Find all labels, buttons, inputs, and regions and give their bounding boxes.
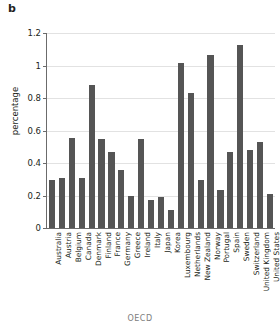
bar (188, 93, 194, 228)
x-tick-label: Australia (55, 232, 62, 265)
bar (217, 190, 223, 228)
bar (247, 150, 253, 228)
bar (128, 196, 134, 229)
x-tick-label: Norway (214, 232, 221, 260)
bar (237, 45, 243, 228)
bar (79, 178, 85, 228)
y-tick-label: 0.4 (27, 159, 41, 168)
y-axis-title: percentage (10, 71, 20, 151)
bar (49, 180, 55, 228)
x-tick-label: Finland (105, 232, 112, 258)
x-tick-label: Italy (154, 232, 161, 248)
x-tick-label: Germany (124, 232, 131, 266)
bar (138, 139, 144, 228)
x-tick-label: Canada (85, 232, 92, 260)
x-tick-label: Portugal (223, 232, 230, 263)
x-tick-label: United States (273, 232, 280, 282)
bar (158, 197, 164, 228)
x-tick-label: Sweden (243, 232, 250, 261)
x-tick-label: Spain (233, 232, 240, 253)
bar (178, 63, 184, 228)
bar (69, 138, 75, 228)
bar (257, 142, 263, 228)
bar (168, 210, 174, 228)
x-tick-label: United Kingdom (263, 232, 270, 291)
x-tick-label: Austria (65, 232, 72, 258)
x-tick-label: Greece (134, 232, 141, 258)
bar (267, 194, 273, 228)
x-tick-label: Korea (174, 232, 181, 253)
y-tick-label: 1 (36, 61, 41, 70)
bar (89, 85, 95, 228)
y-tick-label: 0 (36, 224, 41, 233)
bar (118, 170, 124, 229)
x-tick-label: France (114, 232, 121, 257)
bar (98, 139, 104, 228)
y-tick-label: 0.8 (27, 94, 41, 103)
y-tick-label: 1.2 (27, 29, 41, 38)
bar (108, 152, 114, 228)
x-tick-label: Netherlands (194, 232, 201, 277)
x-tick-label: Switzerland (253, 232, 260, 275)
panel-label: b (8, 3, 16, 14)
x-tick-label: Ireland (144, 232, 151, 258)
x-axis-title: OECD (0, 314, 280, 323)
y-axis-line (46, 33, 47, 228)
x-tick-label: Denmark (95, 232, 102, 266)
y-tick-label: 0.2 (27, 191, 41, 200)
x-tick-label: Belgium (75, 232, 82, 262)
bar (207, 55, 213, 228)
gridline (47, 33, 275, 34)
x-tick-label: Japan (164, 232, 171, 253)
bar (59, 178, 65, 228)
y-tick-label: 0.6 (27, 126, 41, 135)
chart-figure: b percentage 00.20.40.60.811.2 Australia… (0, 0, 280, 332)
x-tick-label: Luxembourg (184, 232, 191, 278)
bar (198, 180, 204, 228)
x-tick-label: New Zealand (204, 232, 211, 281)
bar (227, 152, 233, 228)
bar (148, 200, 154, 228)
plot-area: 00.20.40.60.811.2 AustraliaAustriaBelgiu… (47, 33, 275, 228)
x-axis-line (46, 228, 275, 229)
